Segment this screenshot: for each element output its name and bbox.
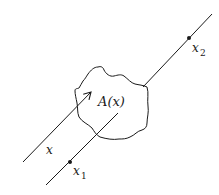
vector-x-label: x (46, 143, 53, 157)
vector-x-line (23, 92, 91, 162)
point-x1-dot (68, 160, 72, 164)
point-x1-subscript: 1 (81, 171, 87, 181)
diagram-canvas: A(x) x x 1 x 2 (0, 0, 219, 195)
point-x2-subscript: 2 (200, 48, 206, 58)
region-label: A(x) (97, 94, 125, 109)
point-x1-label: x (73, 164, 80, 178)
point-x2-dot (187, 36, 191, 40)
point-x2-label: x (192, 41, 199, 55)
